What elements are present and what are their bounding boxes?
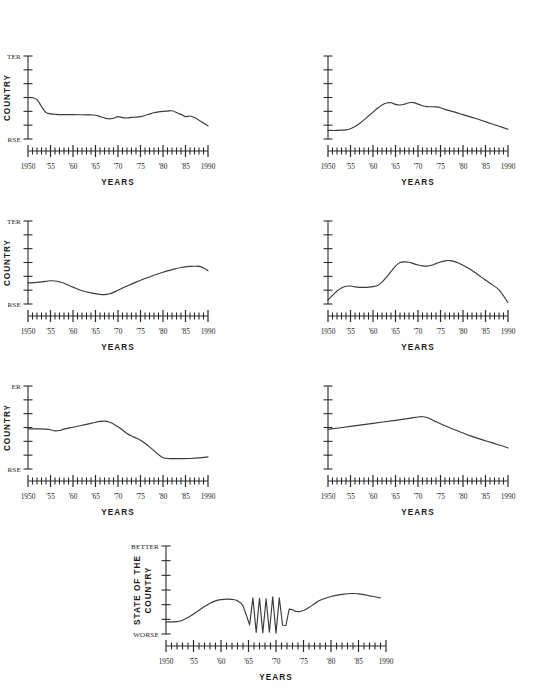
y-axis-worse-label: RSE [7, 301, 21, 309]
x-axis-tick-label: '75 [136, 162, 145, 171]
x-axis-tick-label: '55 [46, 492, 55, 501]
x-axis-tick-label: '75 [436, 492, 445, 501]
x-axis-tick-label: '55 [346, 327, 355, 336]
x-axis-tick-label: '65 [91, 327, 100, 336]
y-axis-title: COUNTRY [3, 239, 12, 286]
x-axis-title: YEARS [101, 508, 135, 517]
x-axis-tick-label: '60 [369, 162, 378, 171]
y-axis-title: STATE OF THECOUNTRY [133, 555, 153, 625]
x-axis-tick-label: '60 [69, 162, 78, 171]
y-axis-title: COUNTRY [3, 404, 12, 451]
x-axis-tick-label: '85 [481, 327, 490, 336]
x-axis-tick-label: 1990 [201, 162, 216, 171]
x-axis-title: YEARS [259, 673, 293, 682]
x-axis-tick-label: 1990 [501, 162, 516, 171]
x-axis-tick-label: '75 [136, 492, 145, 501]
chart-panel-row2-right: 1950'55'60'65'70'75'80'851990YEARS [262, 207, 522, 362]
x-axis-tick-label: '65 [244, 657, 253, 666]
x-axis-title: YEARS [401, 178, 435, 187]
figure-panel-grid: TERRSECOUNTRY1950'55'60'65'70'75'80'8519… [0, 0, 539, 697]
x-axis-tick-label: '55 [346, 162, 355, 171]
chart-panel-row2-left: TERRSECOUNTRY1950'55'60'65'70'75'80'8519… [0, 207, 222, 362]
x-axis-tick-label: '85 [354, 657, 363, 666]
x-axis-tick-label: '60 [217, 657, 226, 666]
data-line-series [328, 102, 508, 130]
x-axis-tick-label: 1950 [321, 492, 336, 501]
x-axis-tick-label: '65 [391, 492, 400, 501]
data-line-series [28, 266, 208, 294]
chart-panel-row1-right: 1950'55'60'65'70'75'80'851990YEARS [262, 42, 522, 197]
x-axis-tick-label: '70 [414, 327, 423, 336]
x-axis-tick-label: '80 [159, 327, 168, 336]
y-axis-better-label: TER [7, 218, 21, 226]
x-axis-tick-label: 1990 [201, 327, 216, 336]
x-axis-tick-label: '70 [414, 492, 423, 501]
x-axis-tick-label: 1950 [21, 492, 36, 501]
x-axis-tick-label: '55 [46, 327, 55, 336]
x-axis-tick-label: '75 [436, 162, 445, 171]
x-axis-tick-label: '70 [114, 492, 123, 501]
chart-panel-row1-left: TERRSECOUNTRY1950'55'60'65'70'75'80'8519… [0, 42, 222, 197]
x-axis-tick-label: '80 [459, 327, 468, 336]
y-axis-title-line1: STATE OF THE [133, 555, 142, 625]
y-axis-worse-label: RSE [7, 136, 21, 144]
x-axis-tick-label: '80 [159, 492, 168, 501]
chart-panel-row3-right: 1950'55'60'65'70'75'80'851990YEARS [262, 372, 522, 527]
y-axis-better-label: TER [7, 53, 21, 61]
y-axis-title-line2: COUNTRY [144, 566, 153, 613]
x-axis-tick-label: '85 [181, 492, 190, 501]
x-axis-tick-label: '70 [414, 162, 423, 171]
x-axis-tick-label: '65 [91, 492, 100, 501]
data-line-series [28, 421, 208, 459]
y-axis-better-label: BETTER [131, 543, 159, 551]
y-axis-better-label: ER [12, 383, 22, 391]
x-axis-tick-label: '65 [391, 162, 400, 171]
x-axis-tick-label: '70 [272, 657, 281, 666]
data-line-series [28, 98, 208, 126]
x-axis-tick-label: '75 [299, 657, 308, 666]
data-line-series [166, 593, 381, 633]
x-axis-tick-label: '65 [391, 327, 400, 336]
x-axis-tick-label: '85 [481, 492, 490, 501]
data-line-series [328, 417, 508, 448]
x-axis-tick-label: 1990 [501, 492, 516, 501]
y-axis-worse-label: WORSE [133, 631, 159, 639]
chart-panel-row4-center: BETTERWORSESTATE OF THECOUNTRY1950'55'60… [100, 532, 400, 692]
x-axis-tick-label: '70 [114, 162, 123, 171]
data-line-series [328, 261, 508, 303]
x-axis-tick-label: '65 [91, 162, 100, 171]
x-axis-tick-label: '60 [69, 492, 78, 501]
y-axis-title: COUNTRY [3, 74, 12, 121]
x-axis-tick-label: '60 [369, 327, 378, 336]
x-axis-tick-label: '60 [369, 492, 378, 501]
x-axis-tick-label: '80 [159, 162, 168, 171]
x-axis-tick-label: '60 [69, 327, 78, 336]
chart-panel-row3-left: ERRSECOUNTRY1950'55'60'65'70'75'80'85199… [0, 372, 222, 527]
x-axis-tick-label: 1990 [501, 327, 516, 336]
x-axis-title: YEARS [101, 343, 135, 352]
x-axis-tick-label: 1950 [321, 162, 336, 171]
x-axis-tick-label: 1950 [321, 327, 336, 336]
x-axis-tick-label: '80 [459, 162, 468, 171]
x-axis-tick-label: '85 [181, 327, 190, 336]
x-axis-tick-label: '80 [459, 492, 468, 501]
y-axis-worse-label: RSE [7, 466, 21, 474]
x-axis-tick-label: '55 [346, 492, 355, 501]
x-axis-tick-label: '70 [114, 327, 123, 336]
x-axis-tick-label: 1950 [21, 327, 36, 336]
x-axis-title: YEARS [101, 178, 135, 187]
x-axis-tick-label: '55 [189, 657, 198, 666]
x-axis-tick-label: 1950 [21, 162, 36, 171]
x-axis-tick-label: '75 [136, 327, 145, 336]
x-axis-title: YEARS [401, 508, 435, 517]
x-axis-tick-label: '80 [327, 657, 336, 666]
x-axis-tick-label: '85 [481, 162, 490, 171]
x-axis-tick-label: '85 [181, 162, 190, 171]
x-axis-tick-label: 1990 [201, 492, 216, 501]
x-axis-tick-label: 1950 [159, 657, 174, 666]
x-axis-tick-label: 1990 [379, 657, 394, 666]
x-axis-tick-label: '75 [436, 327, 445, 336]
x-axis-tick-label: '55 [46, 162, 55, 171]
x-axis-title: YEARS [401, 343, 435, 352]
